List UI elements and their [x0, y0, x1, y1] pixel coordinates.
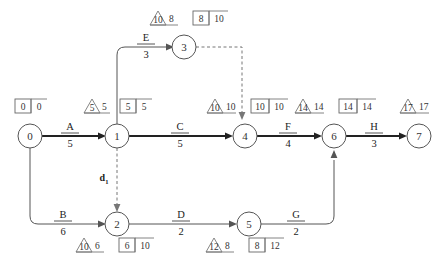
node-3-triangle-value: 10 [153, 15, 163, 25]
edge-f-label: F [285, 121, 291, 132]
node-0-label: 0 [27, 130, 33, 142]
node-0-box-right-value: 0 [37, 102, 42, 112]
node-2-box-left-value: 6 [125, 241, 130, 251]
edge-c-label: C [176, 121, 183, 132]
node-6-triangle-value: 14 [298, 103, 308, 113]
edge-b-label: B [59, 209, 66, 220]
node-4-triangle-value: 10 [210, 103, 220, 113]
node-6-box-left-value: 14 [343, 102, 353, 112]
node-3-box-left-value: 8 [199, 14, 204, 24]
node-7-triangle-side-value: 17 [419, 102, 429, 112]
node-6-triangle-side-value: 14 [314, 102, 324, 112]
dummy-edge-3-4-arrowhead [239, 112, 246, 120]
node-3-triangle-side-value: 8 [169, 14, 174, 24]
node-3-label: 3 [181, 41, 187, 53]
node-1-triangle-value: 5 [90, 103, 95, 113]
node-2-box-right-value: 10 [140, 241, 150, 251]
marker-node-7: 17 17 [400, 99, 429, 113]
edge-g-duration: 2 [293, 226, 298, 237]
edge-h-label: H [370, 121, 378, 132]
node-1-triangle-side-value: 5 [102, 102, 107, 112]
dummy-edge-d1-label: d1 [100, 172, 109, 185]
node-7-triangle-value: 17 [403, 103, 413, 113]
node-1-box-left-value: 5 [126, 102, 131, 112]
edges-layer: A 5 B 6 C 5 [30, 32, 407, 237]
node-markers-layer: 0 0 5 5 5 5 10 6 [15, 11, 429, 252]
node-3-box-right-value: 10 [214, 14, 224, 24]
marker-node-2: 10 6 6 10 [76, 238, 154, 252]
edge-b[interactable]: B 6 [30, 148, 106, 237]
edge-a-label: A [66, 121, 74, 132]
node-4-label: 4 [242, 130, 248, 142]
node-4-triangle-side-value: 10 [226, 102, 236, 112]
node-5-box-right-value: 12 [270, 241, 280, 251]
node-1[interactable]: 1 [105, 124, 129, 148]
edge-e-label: E [143, 32, 149, 43]
marker-node-1: 5 5 5 5 [84, 99, 152, 113]
edge-g-arrowhead [331, 150, 338, 158]
node-4[interactable]: 4 [233, 124, 257, 148]
edge-c-arrowhead [225, 132, 233, 139]
node-5[interactable]: 5 [237, 212, 261, 236]
node-1-label: 1 [114, 130, 120, 142]
node-6[interactable]: 6 [322, 124, 346, 148]
node-5-box-left-value: 8 [255, 241, 260, 251]
edge-h-duration: 3 [371, 138, 376, 149]
node-6-label: 6 [331, 130, 337, 142]
marker-node-4: 10 10 10 10 [207, 99, 288, 113]
edge-d-duration: 2 [178, 226, 183, 237]
network-diagram-canvas: A 5 B 6 C 5 [0, 0, 436, 263]
dummy-edge-d1[interactable]: d1 [100, 148, 121, 212]
node-2-triangle-value: 10 [79, 242, 89, 252]
marker-node-0: 0 0 [15, 99, 47, 113]
edge-h-arrowhead [399, 132, 407, 139]
node-4-box-left-value: 10 [255, 102, 265, 112]
node-2[interactable]: 2 [105, 212, 129, 236]
edge-f-arrowhead [314, 132, 322, 139]
edge-a-duration: 5 [67, 138, 72, 149]
edge-d-arrowhead [229, 221, 237, 228]
edge-f[interactable]: F 4 [257, 121, 322, 149]
node-5-label: 5 [246, 218, 252, 230]
node-7-label: 7 [416, 130, 422, 142]
edge-g-label: G [292, 209, 300, 220]
marker-node-6: 14 14 14 14 [295, 99, 376, 113]
node-2-label: 2 [114, 218, 120, 230]
node-1-box-right-value: 5 [142, 102, 147, 112]
network-diagram-svg: A 5 B 6 C 5 [0, 0, 436, 263]
node-7[interactable]: 7 [407, 124, 431, 148]
node-5-triangle-value: 12 [209, 242, 219, 252]
node-6-box-right-value: 14 [362, 102, 372, 112]
edge-e-duration: 3 [143, 49, 148, 60]
node-0-box-left-value: 0 [21, 102, 26, 112]
node-4-box-right-value: 10 [274, 102, 284, 112]
dummy-edge-d1-arrowhead [114, 204, 121, 212]
edge-c-duration: 5 [177, 138, 182, 149]
node-3[interactable]: 3 [172, 35, 196, 59]
edge-c[interactable]: C 5 [129, 121, 233, 149]
edge-d[interactable]: D 2 [129, 209, 237, 237]
node-5-triangle-side-value: 8 [225, 241, 230, 251]
edge-b-duration: 6 [60, 226, 65, 237]
node-2-triangle-side-value: 6 [95, 241, 100, 251]
edge-f-duration: 4 [285, 138, 291, 149]
edge-d-label: D [177, 209, 185, 220]
edge-h[interactable]: H 3 [346, 121, 407, 149]
edge-a[interactable]: A 5 [42, 121, 106, 149]
marker-node-5: 12 8 8 12 [206, 238, 284, 252]
edge-g[interactable]: G 2 [261, 150, 337, 237]
node-0[interactable]: 0 [18, 124, 42, 148]
marker-node-3: 10 8 8 10 [150, 11, 228, 25]
